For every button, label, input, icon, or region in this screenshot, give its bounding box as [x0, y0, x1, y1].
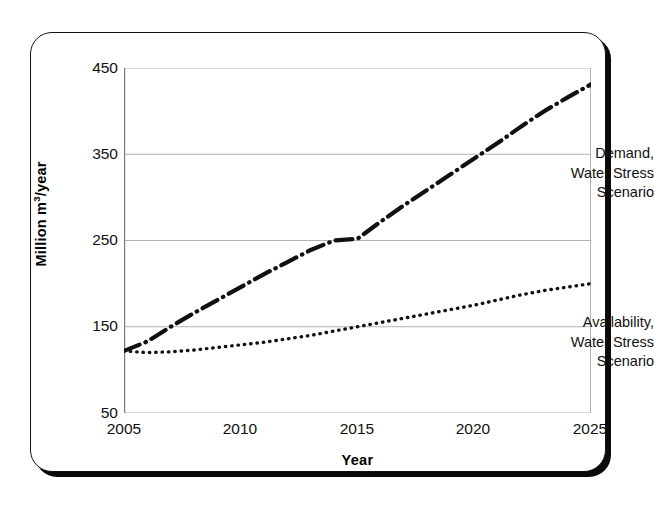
x-tick-2010: 2010: [205, 421, 275, 437]
plot-area: Demand, Water Stress Scenario Availabili…: [124, 68, 591, 413]
annotation-demand-line-1: Demand,: [454, 144, 654, 164]
x-axis-tick-labels: 2005 2010 2015 2020 2025: [124, 421, 591, 445]
y-tick-50: 50: [70, 405, 118, 421]
annotation-availability-label: Availability, Water Stress Scenario: [454, 313, 654, 372]
x-tick-2005: 2005: [89, 421, 159, 437]
series-line-demand: [124, 84, 591, 351]
y-axis-title: Million m3/year: [31, 114, 49, 314]
annotation-availability-line-2: Water Stress: [454, 333, 654, 353]
x-tick-2025: 2025: [555, 421, 625, 437]
y-tick-450: 450: [70, 60, 118, 76]
y-tick-150: 150: [70, 318, 118, 334]
y-axis-title-superscript: 3: [31, 196, 42, 201]
x-tick-2020: 2020: [438, 421, 508, 437]
y-tick-250: 250: [70, 232, 118, 248]
annotation-availability-line-3: Scenario: [454, 352, 654, 372]
y-axis-tick-labels: 450 350 250 150 50: [66, 68, 118, 413]
annotation-demand-line-3: Scenario: [454, 183, 654, 203]
y-tick-350: 350: [70, 146, 118, 162]
x-tick-2015: 2015: [322, 421, 392, 437]
annotation-availability-line-1: Availability,: [454, 313, 654, 333]
x-axis-title: Year: [124, 452, 591, 468]
y-axis-title-suffix: /year: [33, 161, 49, 196]
annotation-demand-line-2: Water Stress: [454, 164, 654, 184]
y-axis-title-prefix: Million m: [33, 202, 49, 267]
annotation-demand-label: Demand, Water Stress Scenario: [454, 144, 654, 203]
